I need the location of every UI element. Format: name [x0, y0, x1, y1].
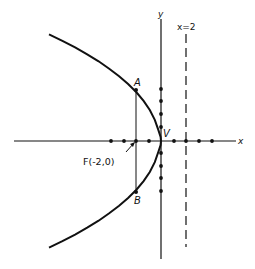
vertex-label: V — [163, 128, 171, 139]
focus-label: F(-2,0) — [83, 156, 114, 167]
point-b-label: B — [134, 195, 141, 206]
point-b — [134, 190, 138, 194]
directrix-label: x=2 — [177, 22, 196, 32]
parabola-diagram: x y x=2 A B V F(-2,0) — [0, 0, 255, 269]
point-a-label: A — [133, 77, 141, 88]
y-axis-label: y — [157, 9, 164, 19]
x-axis-label: x — [237, 136, 244, 146]
point-a — [134, 88, 138, 92]
